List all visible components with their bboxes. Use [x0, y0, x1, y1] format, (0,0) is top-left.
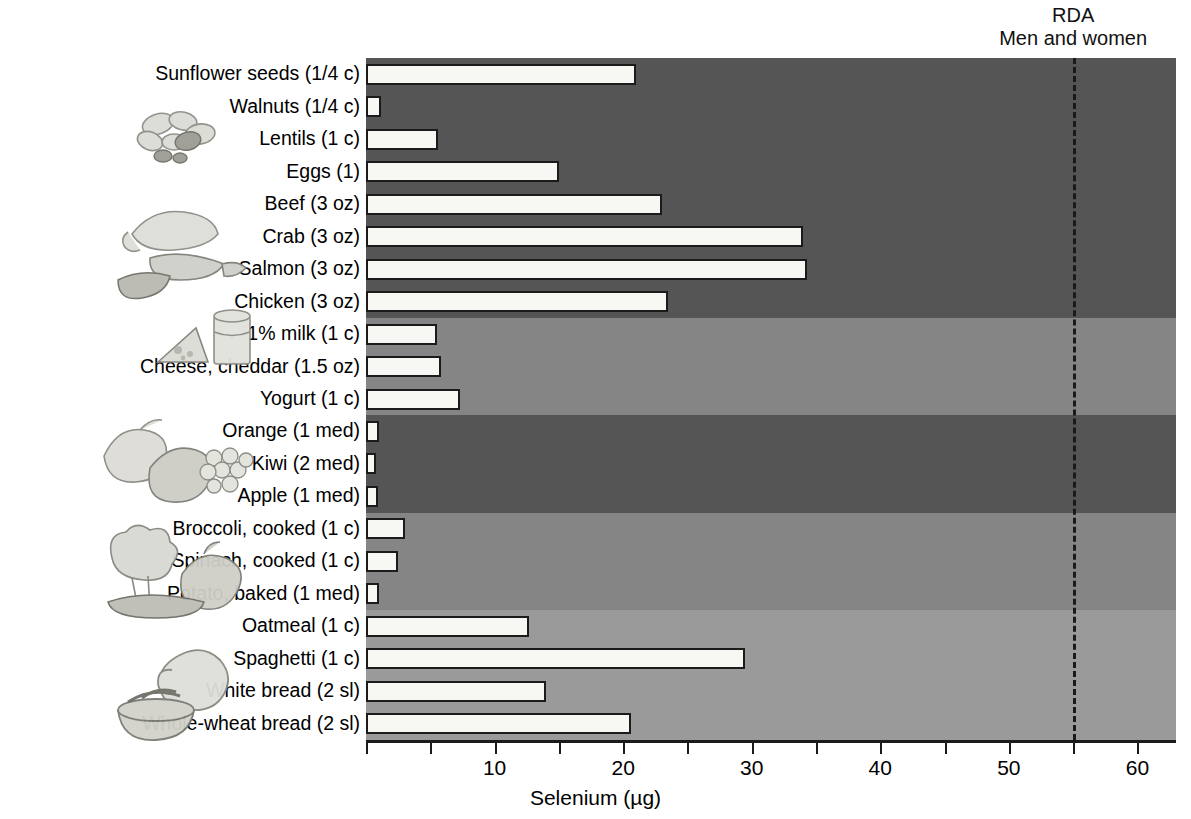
x-axis-tick-label: 60 [1107, 756, 1167, 780]
bar [366, 96, 381, 117]
bar [366, 291, 668, 312]
rda-label-line2: Men and women [943, 27, 1191, 50]
x-axis-tick [752, 743, 754, 754]
bar [366, 616, 529, 637]
bar [366, 226, 803, 247]
x-axis-tick [559, 743, 561, 754]
x-axis-tick [1073, 743, 1075, 754]
bar [366, 161, 559, 182]
bar [366, 64, 636, 85]
rda-label-line1: RDA [943, 4, 1191, 27]
x-axis-tick [816, 743, 818, 754]
meat-fish-illustration [110, 196, 260, 306]
category-label: Yogurt (1 c) [0, 389, 360, 409]
bar [366, 713, 631, 734]
band-vegetables [366, 513, 1176, 610]
x-axis-tick-label: 20 [593, 756, 653, 780]
bar [366, 486, 378, 507]
band-fruits [366, 415, 1176, 512]
nuts-illustration [128, 108, 234, 170]
rda-annotation: RDA Men and women [943, 4, 1191, 50]
bar [366, 648, 745, 669]
x-axis-tick [1137, 743, 1139, 754]
grains-illustration [108, 640, 274, 752]
plot-area [366, 58, 1176, 740]
x-axis-tick [687, 743, 689, 754]
x-axis-tick [366, 743, 368, 754]
bar [366, 518, 405, 539]
x-axis-line [366, 740, 1176, 743]
bar [366, 324, 437, 345]
x-axis-tick [623, 743, 625, 754]
bar [366, 356, 441, 377]
bar [366, 453, 376, 474]
x-axis-tick [495, 743, 497, 754]
rda-reference-line [1073, 58, 1076, 740]
category-label: Sunflower seeds (1/4 c) [0, 64, 360, 84]
x-axis-tick [945, 743, 947, 754]
bar [366, 129, 438, 150]
x-axis-tick [1009, 743, 1011, 754]
bar [366, 583, 379, 604]
fruits-illustration [96, 412, 266, 516]
x-axis-tick-label: 10 [465, 756, 525, 780]
bar [366, 681, 546, 702]
bar [366, 259, 807, 280]
band-dairy [366, 318, 1176, 415]
x-axis-title: Selenium (µg) [0, 786, 1191, 810]
vegetables-illustration [98, 518, 274, 622]
bar [366, 421, 379, 442]
bar [366, 194, 662, 215]
bar [366, 551, 398, 572]
bar [366, 389, 460, 410]
figure-root: RDA Men and women Sunflower seeds (1/4 c… [0, 0, 1191, 819]
dairy-illustration [152, 306, 264, 376]
x-axis-tick-label: 30 [722, 756, 782, 780]
x-axis-tick [430, 743, 432, 754]
x-axis-tick-label: 50 [979, 756, 1039, 780]
x-axis-tick-label: 40 [850, 756, 910, 780]
x-axis-tick [880, 743, 882, 754]
